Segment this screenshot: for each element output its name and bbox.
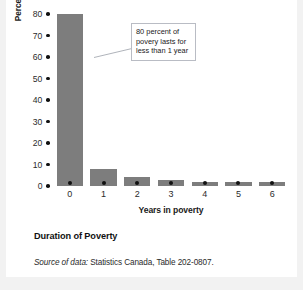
figure-source-note: Source of data: Statistics Canada, Table… bbox=[34, 258, 214, 267]
y-tick-label: 70 bbox=[33, 31, 43, 41]
figure-caption-title: Duration of Poverty bbox=[34, 231, 117, 241]
y-tick: 0 bbox=[38, 181, 53, 191]
y-tick-dot-icon bbox=[46, 120, 50, 124]
y-tick-dot-icon bbox=[46, 163, 50, 167]
x-axis-label: Years in poverty bbox=[53, 205, 289, 215]
y-tick-label: 50 bbox=[33, 74, 43, 84]
y-tick: 40 bbox=[33, 95, 53, 105]
y-tick: 80 bbox=[33, 9, 53, 19]
y-tick-label: 20 bbox=[33, 138, 43, 148]
x-tick-label: 0 bbox=[53, 189, 87, 199]
y-tick-dot-icon bbox=[46, 184, 50, 188]
x-tick-dot-icon bbox=[236, 181, 240, 185]
x-tick-label: 4 bbox=[188, 189, 222, 199]
bar-slot bbox=[255, 14, 289, 186]
y-tick-label: 30 bbox=[33, 117, 43, 127]
y-tick-label: 40 bbox=[33, 95, 43, 105]
y-tick-dot-icon bbox=[46, 12, 50, 16]
y-tick-dot-icon bbox=[46, 141, 50, 145]
callout-line-3: less than 1 year bbox=[136, 46, 191, 56]
x-tick-label: 2 bbox=[120, 189, 154, 199]
y-tick: 60 bbox=[33, 52, 53, 62]
bar-slot bbox=[53, 14, 87, 186]
y-tick-dot-icon bbox=[46, 98, 50, 102]
x-tick-dot-icon bbox=[270, 181, 274, 185]
y-tick-label: 60 bbox=[33, 52, 43, 62]
y-tick: 10 bbox=[33, 160, 53, 170]
y-tick-label: 0 bbox=[38, 181, 43, 191]
callout-line-1: 80 percent of bbox=[136, 27, 191, 37]
y-tick-label: 10 bbox=[33, 160, 43, 170]
figure-plate: Percentage of persons in low income 8070… bbox=[6, 0, 297, 277]
y-tick-label: 80 bbox=[33, 9, 43, 19]
y-tick: 20 bbox=[33, 138, 53, 148]
x-tick-label: 1 bbox=[87, 189, 121, 199]
x-tick-label: 3 bbox=[154, 189, 188, 199]
bar bbox=[57, 14, 83, 186]
x-tick-dot-icon bbox=[135, 181, 139, 185]
y-tick: 30 bbox=[33, 117, 53, 127]
x-tick-dot-icon bbox=[169, 181, 173, 185]
source-text: Statistics Canada, Table 202-0807. bbox=[88, 258, 214, 267]
y-tick-dot-icon bbox=[46, 55, 50, 59]
y-axis-label: Percentage of persons in low income bbox=[13, 0, 23, 34]
x-tick-dot-icon bbox=[68, 181, 72, 185]
figure-container: Percentage of persons in low income 8070… bbox=[0, 0, 303, 290]
y-tick: 50 bbox=[33, 74, 53, 84]
source-label: Source of data: bbox=[34, 258, 88, 267]
x-tick-label: 5 bbox=[222, 189, 256, 199]
x-tick-dot-icon bbox=[203, 181, 207, 185]
x-tick-label: 6 bbox=[255, 189, 289, 199]
bar-slot bbox=[87, 14, 121, 186]
y-tick: 70 bbox=[33, 31, 53, 41]
annotation-callout: 80 percent of povery lasts for less than… bbox=[131, 23, 196, 61]
y-tick-dot-icon bbox=[46, 77, 50, 81]
x-tick-dot-icon bbox=[102, 181, 106, 185]
bar-slot bbox=[222, 14, 256, 186]
y-tick-dot-icon bbox=[46, 34, 50, 38]
callout-line-2: povery lasts for bbox=[136, 37, 191, 47]
